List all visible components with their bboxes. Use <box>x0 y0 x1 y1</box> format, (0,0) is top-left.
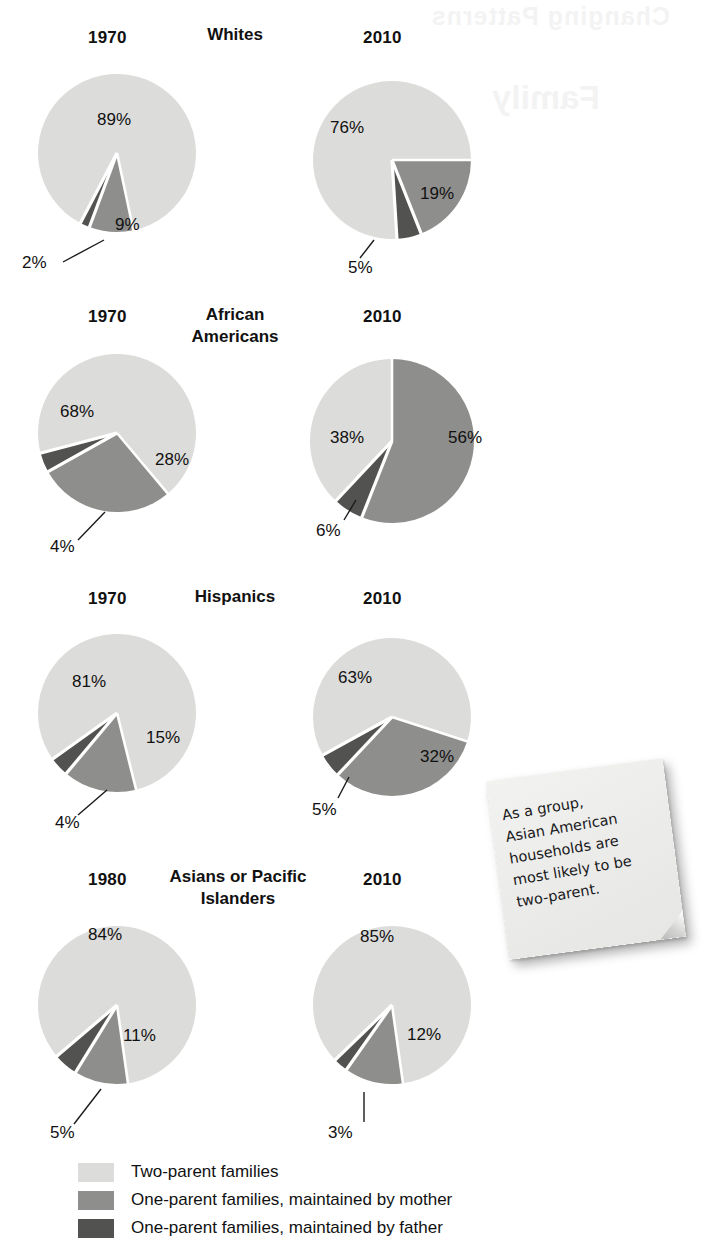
group-title-4: Asians or Pacific Islanders <box>148 866 328 910</box>
pie-3-left-label-father: 4% <box>55 813 80 833</box>
pie-1-left <box>35 71 199 235</box>
pie-1-right-label-father: 5% <box>348 258 373 278</box>
pie-4-right-year-heading: 2010 <box>363 870 402 890</box>
pie-2-left <box>35 351 199 515</box>
pie-4-left <box>35 923 199 1087</box>
pie-3-left-year-heading: 1970 <box>88 589 127 609</box>
pie-4-right-leader-line <box>362 1090 366 1124</box>
legend-swatch-icon-3 <box>78 1219 114 1238</box>
pie-2-left-label-father: 4% <box>50 537 75 557</box>
sticky-note-callout: As a group, Asian American households ar… <box>486 758 686 960</box>
pie-4-right-label-two-parent: 85% <box>360 927 394 947</box>
pie-3-right-year-heading: 2010 <box>363 589 402 609</box>
pie-1-left-label-two-parent: 89% <box>97 110 131 130</box>
pie-2-right-year-heading: 2010 <box>363 307 402 327</box>
pie-3-left-label-mother: 15% <box>146 728 180 748</box>
pie-1-left <box>35 71 199 235</box>
pie-2-right-label-mother: 56% <box>448 428 482 448</box>
pie-4-right-label-mother: 12% <box>407 1025 441 1045</box>
legend-swatch-icon-1 <box>78 1163 114 1182</box>
chart-legend: Two-parent familiesOne-parent families, … <box>78 1158 452 1242</box>
pie-chart-grid: 89%9%2%197076%19%5%2010Whites68%28%4%197… <box>0 0 704 1252</box>
pie-2-left-label-two-parent: 68% <box>60 402 94 422</box>
pie-1-right <box>310 78 474 242</box>
pie-3-left-label-two-parent: 81% <box>72 672 106 692</box>
pie-4-right <box>310 923 474 1087</box>
legend-label-1: Two-parent families <box>131 1162 278 1182</box>
pie-4-left <box>35 923 199 1087</box>
pie-2-left-label-mother: 28% <box>155 450 189 470</box>
pie-2-left <box>35 351 199 515</box>
legend-item-3: One-parent families, maintained by fathe… <box>78 1214 452 1242</box>
pie-3-left <box>35 631 199 795</box>
pie-1-left-year-heading: 1970 <box>88 28 127 48</box>
pie-4-right <box>310 923 474 1087</box>
group-title-2: African Americans <box>145 304 325 348</box>
pie-4-right-label-father: 3% <box>328 1123 353 1143</box>
pie-4-left-label-mother: 11% <box>123 1026 156 1046</box>
pie-3-left <box>35 631 199 795</box>
pie-4-left-leader-line <box>72 1087 103 1126</box>
pie-3-right-label-father: 5% <box>312 800 337 820</box>
pie-4-left-label-two-parent: 84% <box>88 925 122 945</box>
pie-4-left-label-father: 5% <box>50 1123 75 1143</box>
legend-item-2: One-parent families, maintained by mothe… <box>78 1186 452 1214</box>
pie-2-right-label-two-parent: 38% <box>330 428 364 448</box>
group-title-3: Hispanics <box>145 586 325 608</box>
group-title-1: Whites <box>145 24 325 46</box>
pie-3-right-label-mother: 32% <box>420 747 454 767</box>
pie-4-left-year-heading: 1980 <box>88 870 127 890</box>
pie-2-left-year-heading: 1970 <box>88 307 127 327</box>
pie-2-right-label-father: 6% <box>316 521 341 541</box>
pie-1-left-label-mother: 9% <box>115 215 140 235</box>
pie-1-right-label-two-parent: 76% <box>330 118 364 138</box>
legend-swatch-icon-2 <box>78 1191 114 1210</box>
pie-3-right <box>310 635 474 799</box>
pie-1-right <box>310 78 474 242</box>
pie-1-left-leader-line <box>61 238 106 264</box>
pie-1-right-label-mother: 19% <box>420 184 454 204</box>
pie-3-right <box>310 635 474 799</box>
pie-3-right-label-two-parent: 63% <box>338 668 372 688</box>
legend-label-2: One-parent families, maintained by mothe… <box>131 1190 452 1210</box>
pie-1-right-year-heading: 2010 <box>363 28 402 48</box>
legend-item-1: Two-parent families <box>78 1158 452 1186</box>
legend-label-3: One-parent families, maintained by fathe… <box>131 1218 443 1238</box>
pie-1-left-label-father: 2% <box>22 253 47 273</box>
